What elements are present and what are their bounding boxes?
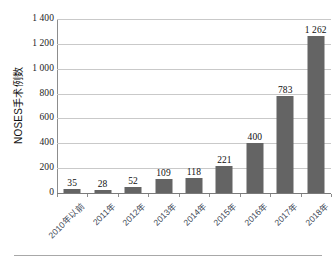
x-axis-tick-mark [87, 194, 88, 197]
bar-value-label: 221 [217, 155, 232, 165]
y-axis-tick-label: 1 200 [14, 39, 54, 48]
bar-group: 35 [57, 19, 87, 193]
bar-value-label: 783 [278, 85, 293, 95]
bar-value-label: 400 [248, 132, 263, 142]
bar [125, 187, 142, 193]
x-axis-tick-label: 2010年以前 [45, 199, 86, 240]
x-axis-tick-mark [209, 194, 210, 197]
plot-area: 3528521091182214007831 262 [57, 19, 331, 193]
x-axis-tick-mark [118, 194, 119, 197]
y-axis-tick-labels: 02004006008001 0001 2001 400 [10, 0, 54, 200]
x-axis-tick-label: 2013年 [149, 199, 178, 228]
x-axis-tick-mark [301, 194, 302, 197]
y-axis-tick-label: 800 [14, 89, 54, 98]
bar-value-label: 109 [156, 168, 171, 178]
caption-divider [14, 255, 322, 256]
x-axis-tick-label: 2015年 [210, 199, 239, 228]
bar-group: 400 [240, 19, 270, 193]
x-axis-tick-mark [57, 194, 58, 197]
bar [155, 179, 172, 193]
x-axis-tick-label: 2014年 [180, 199, 209, 228]
bar-value-label: 28 [98, 179, 108, 189]
x-axis-tick-mark [331, 194, 332, 197]
bar-group: 52 [118, 19, 148, 193]
bar [185, 178, 202, 193]
x-axis-tick-label: 2018年 [302, 199, 331, 228]
y-axis-tick-label: 600 [14, 113, 54, 122]
bar-group: 783 [270, 19, 300, 193]
y-axis-tick-label: 400 [14, 138, 54, 147]
bar [277, 96, 294, 193]
chart-figure: NOSES手术例数 02004006008001 0001 2001 400 3… [0, 0, 336, 265]
y-axis-tick-label: 0 [14, 188, 54, 197]
bar-group: 221 [209, 19, 239, 193]
x-axis-tick-mark [240, 194, 241, 197]
x-axis-tick-mark [270, 194, 271, 197]
bar-value-label: 35 [67, 178, 77, 188]
bar [307, 36, 324, 193]
bar [216, 166, 233, 193]
y-axis-tick-label: 1 000 [14, 64, 54, 73]
bar-value-label: 118 [187, 167, 201, 177]
bar-value-label: 52 [128, 176, 138, 186]
bar [246, 143, 263, 193]
y-axis-tick-label: 1 400 [14, 14, 54, 23]
x-axis-tick-labels: 2010年以前2011年2012年2013年2014年2015年2016年201… [57, 194, 331, 244]
x-axis-tick-label: 2016年 [241, 199, 270, 228]
bar-value-label: 1 262 [305, 25, 327, 35]
bar-group: 109 [148, 19, 178, 193]
figure-caption [14, 259, 322, 265]
bar-group: 28 [87, 19, 117, 193]
x-axis-tick-mark [148, 194, 149, 197]
bar-group: 1 262 [301, 19, 331, 193]
x-axis-tick-mark [179, 194, 180, 197]
y-axis-tick-label: 200 [14, 163, 54, 172]
x-axis-tick-label: 2017年 [271, 199, 300, 228]
x-axis-tick-label: 2012年 [119, 199, 148, 228]
x-axis-tick-label: 2011年 [89, 199, 117, 227]
bar [64, 189, 81, 193]
bar [94, 190, 111, 193]
bar-group: 118 [179, 19, 209, 193]
